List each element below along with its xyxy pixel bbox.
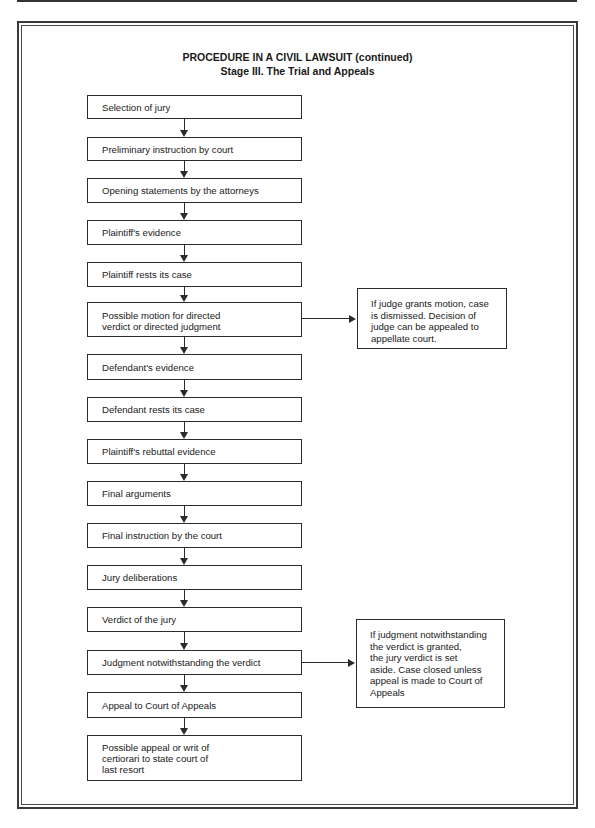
- step-label: Defendant rests its case: [102, 404, 205, 415]
- arrow-down-icon: [180, 643, 188, 650]
- arrow-down-icon: [180, 516, 188, 523]
- step-label: Plaintiff's rebuttal evidence: [102, 446, 216, 457]
- step-label: Appeal to Court of Appeals: [102, 700, 216, 711]
- step-plaintiff-rests: Plaintiff rests its case: [87, 262, 302, 287]
- step-selection-of-jury: Selection of jury: [87, 95, 302, 119]
- step-final-instruction: Final instruction by the court: [87, 523, 302, 548]
- step-jnov: Judgment notwithstanding the verdict: [87, 650, 302, 675]
- arrow-down-icon: [180, 390, 188, 397]
- step-label: Final instruction by the court: [102, 530, 222, 541]
- arrow-down-icon: [180, 728, 188, 735]
- step-label: Selection of jury: [102, 102, 170, 113]
- arrow-down-icon: [180, 347, 188, 354]
- arrow-right-icon: [348, 659, 355, 667]
- step-label: Plaintiff's evidence: [102, 227, 181, 238]
- step-label: Possible appeal or writ of certiorari to…: [102, 742, 209, 775]
- step-opening-statements: Opening statements by the attorneys: [87, 178, 302, 203]
- step-label: Possible motion for directed verdict or …: [102, 310, 220, 332]
- step-label: Verdict of the jury: [102, 614, 176, 625]
- arrow-down-icon: [180, 685, 188, 692]
- arrow-down-icon: [180, 432, 188, 439]
- step-jury-deliberations: Jury deliberations: [87, 565, 302, 590]
- arrow-down-icon: [180, 213, 188, 220]
- step-label: Plaintiff rests its case: [102, 269, 192, 280]
- arrow-right-icon: [349, 315, 356, 323]
- step-label: Preliminary instruction by court: [102, 144, 233, 155]
- branch-connector-line: [302, 662, 349, 663]
- branch-connector-line: [302, 318, 350, 319]
- step-defendant-evidence: Defendant's evidence: [87, 354, 302, 380]
- diagram-title: PROCEDURE IN A CIVIL LAWSUIT (continued): [0, 51, 595, 63]
- arrow-down-icon: [180, 171, 188, 178]
- arrow-down-icon: [180, 295, 188, 302]
- arrow-down-icon: [180, 130, 188, 137]
- arrow-down-icon: [180, 558, 188, 565]
- diagram-subtitle: Stage III. The Trial and Appeals: [0, 65, 595, 77]
- note-jnov-outcome: If judgment notwithstanding the verdict …: [356, 619, 505, 708]
- note-text: If judgment notwithstanding the verdict …: [370, 629, 487, 698]
- step-label: Opening statements by the attorneys: [102, 185, 259, 196]
- step-verdict: Verdict of the jury: [87, 607, 302, 632]
- arrow-down-icon: [180, 600, 188, 607]
- step-plaintiff-rebuttal: Plaintiff's rebuttal evidence: [87, 439, 302, 464]
- note-text: If judge grants motion, case is dismisse…: [371, 298, 489, 344]
- step-certiorari: Possible appeal or writ of certiorari to…: [87, 735, 302, 781]
- step-label: Defendant's evidence: [102, 362, 194, 373]
- step-label: Judgment notwithstanding the verdict: [102, 657, 260, 668]
- step-defendant-rests: Defendant rests its case: [87, 397, 302, 422]
- step-final-arguments: Final arguments: [87, 481, 302, 506]
- arrow-down-icon: [180, 474, 188, 481]
- note-directed-verdict-outcome: If judge grants motion, case is dismisse…: [357, 288, 507, 349]
- step-plaintiff-evidence: Plaintiff's evidence: [87, 220, 302, 245]
- step-directed-verdict-motion: Possible motion for directed verdict or …: [87, 302, 302, 337]
- step-preliminary-instruction: Preliminary instruction by court: [87, 137, 302, 161]
- step-label: Final arguments: [102, 488, 171, 499]
- step-appeal-court-of-appeals: Appeal to Court of Appeals: [87, 692, 302, 718]
- arrow-down-icon: [180, 255, 188, 262]
- page-top-rule: [17, 0, 577, 2]
- step-label: Jury deliberations: [102, 572, 177, 583]
